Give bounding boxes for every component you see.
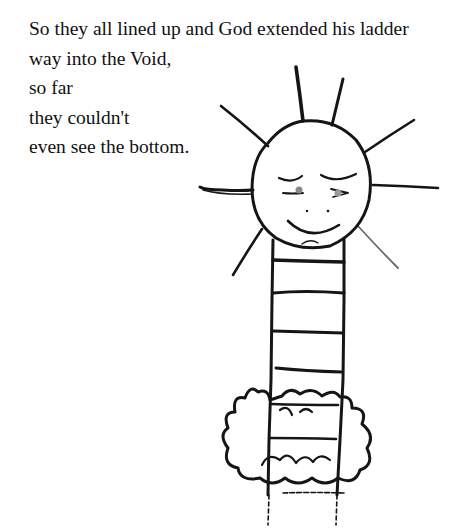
cloud-icon <box>223 389 371 483</box>
sun-ladder-drawing <box>0 0 465 531</box>
sun-face-icon <box>252 121 370 248</box>
sun-rays-icon <box>200 67 438 275</box>
